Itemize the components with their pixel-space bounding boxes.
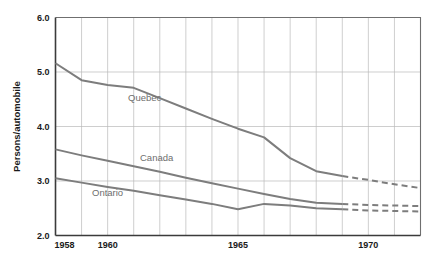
x-axis-tick-label: 1965 <box>228 240 248 250</box>
y-axis-tick-labels: 2.03.04.05.06.0 <box>37 13 50 241</box>
x-axis-tick-label: 1970 <box>358 240 378 250</box>
line-chart-svg: 2.03.04.05.06.0 1958196019651970 Persons… <box>0 0 436 256</box>
y-axis-tick-label: 6.0 <box>37 13 50 23</box>
series-label-quebec: Quebec <box>128 92 162 103</box>
series-inline-labels: QuebecCanadaOntario <box>92 92 174 198</box>
series-projection-canada <box>342 204 420 206</box>
series-label-canada: Canada <box>140 152 174 163</box>
y-axis-tick-label: 5.0 <box>37 67 50 77</box>
chart-container: 2.03.04.05.06.0 1958196019651970 Persons… <box>0 0 436 256</box>
y-axis-tick-label: 2.0 <box>37 231 50 241</box>
x-axis-tick-label: 1958 <box>54 240 74 250</box>
y-axis-tick-label: 4.0 <box>37 122 50 132</box>
y-axis-title: Persons/automobile <box>11 81 22 172</box>
x-axis-tick-label: 1960 <box>98 240 118 250</box>
series-projection-ontario <box>342 209 420 211</box>
series-projection-quebec <box>342 176 420 188</box>
series-label-ontario: Ontario <box>92 187 123 198</box>
x-axis-tick-labels: 1958196019651970 <box>54 240 378 250</box>
y-axis-tick-label: 3.0 <box>37 176 50 186</box>
